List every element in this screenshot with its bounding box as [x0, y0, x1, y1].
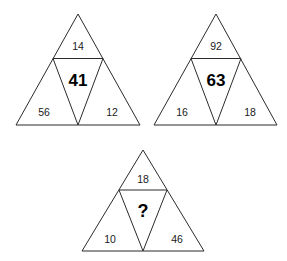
triangle-1: 14 41 56 12 [16, 14, 140, 125]
triangle-2-face [154, 14, 277, 125]
triangle-1-center-value: 41 [69, 71, 88, 90]
triangle-3-bottom-right-value: 46 [171, 233, 183, 245]
triangle-2-center-value: 63 [207, 71, 226, 90]
triangle-3-center-value: ? [138, 201, 149, 221]
triangle-1-bottom-right-value: 12 [106, 106, 118, 118]
triangle-1-bottom-left-value: 56 [38, 106, 50, 118]
triangle-1-apex-value: 14 [72, 40, 84, 52]
triangle-2-bottom-right-value: 18 [244, 106, 256, 118]
triangle-3-apex-value: 18 [137, 173, 149, 185]
triangle-1-face [16, 14, 140, 125]
triangle-puzzle-figure: 14 41 56 12 92 63 16 18 18 ? 10 [0, 0, 287, 261]
triangle-2-bottom-left-value: 16 [176, 106, 188, 118]
triangle-2-apex-value: 92 [210, 40, 222, 52]
triangle-2: 92 63 16 18 [154, 14, 277, 125]
puzzle-stage: 14 41 56 12 92 63 16 18 18 ? 10 [0, 0, 287, 261]
triangle-3-bottom-left-value: 10 [104, 233, 116, 245]
triangle-3: 18 ? 10 46 [82, 150, 204, 251]
